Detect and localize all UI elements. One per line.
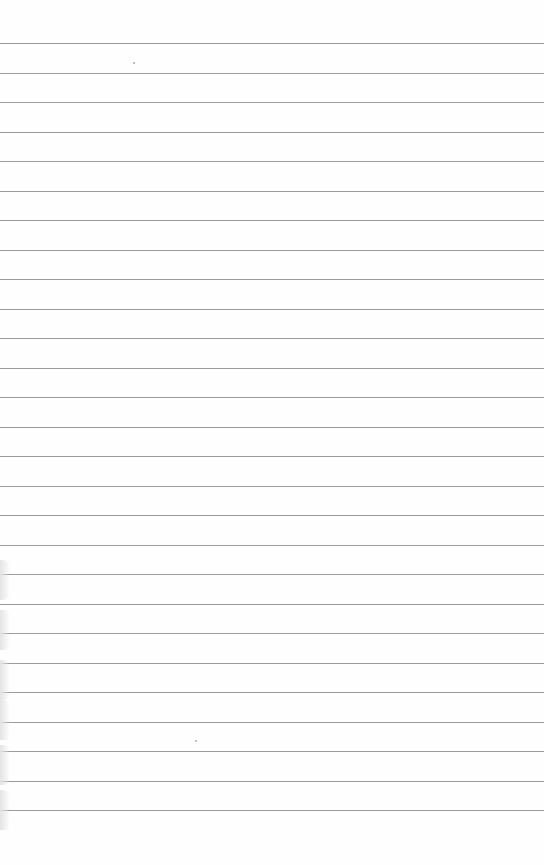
ruled-line: [0, 663, 544, 664]
scan-edge-shadow: [0, 610, 10, 650]
ruled-line: [0, 810, 544, 811]
ruled-line: [0, 545, 544, 546]
ruled-line: [0, 279, 544, 280]
ruled-line: [0, 309, 544, 310]
scan-edge-shadow: [0, 700, 10, 740]
scan-edge-shadow: [0, 560, 10, 600]
ruled-line: [0, 397, 544, 398]
paper-speck: [195, 740, 197, 742]
ruled-line: [0, 368, 544, 369]
ruled-line: [0, 132, 544, 133]
scan-edge-shadow: [0, 745, 10, 785]
ruled-line: [0, 191, 544, 192]
ruled-line: [0, 633, 544, 634]
ruled-line: [0, 250, 544, 251]
ruled-line: [0, 722, 544, 723]
ruled-line: [0, 427, 544, 428]
ruled-line: [0, 751, 544, 752]
ruled-line: [0, 574, 544, 575]
ruled-line: [0, 220, 544, 221]
paper-speck: [133, 62, 135, 64]
ruled-line: [0, 604, 544, 605]
ruled-line: [0, 515, 544, 516]
scan-edge-shadow: [0, 790, 10, 830]
ruled-line: [0, 456, 544, 457]
ruled-line: [0, 43, 544, 44]
ruled-line: [0, 781, 544, 782]
ruled-line: [0, 338, 544, 339]
ruled-line: [0, 692, 544, 693]
ruled-line: [0, 486, 544, 487]
ruled-line: [0, 161, 544, 162]
ruled-line: [0, 73, 544, 74]
scan-edge-shadow: [0, 660, 10, 700]
ruled-line: [0, 102, 544, 103]
lined-paper-page: [0, 0, 544, 865]
